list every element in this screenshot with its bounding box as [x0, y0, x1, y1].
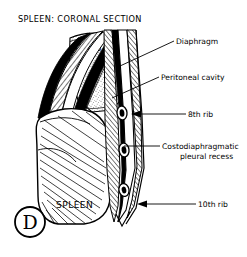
callout-costodiaphragmatic-line1: Costodiaphragmatic — [162, 142, 239, 151]
anatomy-figure: SPLEEN: CORONAL SECTION LUNG — [0, 0, 247, 257]
rib-column — [104, 30, 144, 226]
figure-canvas: SPLEEN: CORONAL SECTION LUNG — [0, 0, 247, 257]
callout-diaphragm: Diaphragm — [176, 37, 218, 46]
figure-title: SPLEEN: CORONAL SECTION — [18, 14, 142, 24]
spleen-label: SPLEEN — [56, 200, 93, 210]
callout-10th-rib: 10th rib — [198, 200, 228, 209]
panel-marker-letter: D — [22, 211, 37, 233]
panel-marker: D — [15, 207, 45, 237]
callout-peritoneal-cavity: Peritoneal cavity — [161, 73, 225, 82]
callout-8th-rib: 8th rib — [188, 110, 213, 119]
arrowhead-10th-rib — [137, 201, 147, 208]
callout-costodiaphragmatic-line2: pleural recess — [180, 152, 233, 161]
spleen-structure: SPLEEN — [36, 109, 110, 228]
